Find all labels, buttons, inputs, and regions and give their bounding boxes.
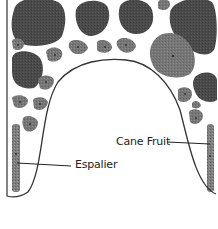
espalier-label: Espalier <box>75 158 117 171</box>
shrub <box>189 109 203 124</box>
tree-canopy <box>193 73 217 102</box>
tree-canopy <box>76 1 110 36</box>
tree-canopy <box>12 51 43 88</box>
shrub <box>158 0 170 10</box>
tree-canopy <box>119 0 153 34</box>
espalier-leader-line <box>17 163 71 166</box>
cane-fruit-strip <box>207 124 214 192</box>
cane-fruit-label: Cane Fruit <box>116 135 170 148</box>
espalier-strip <box>12 124 20 192</box>
garden-plan-diagram <box>0 0 218 229</box>
shrub <box>192 101 201 108</box>
lawn-arch-outline <box>28 59 216 194</box>
